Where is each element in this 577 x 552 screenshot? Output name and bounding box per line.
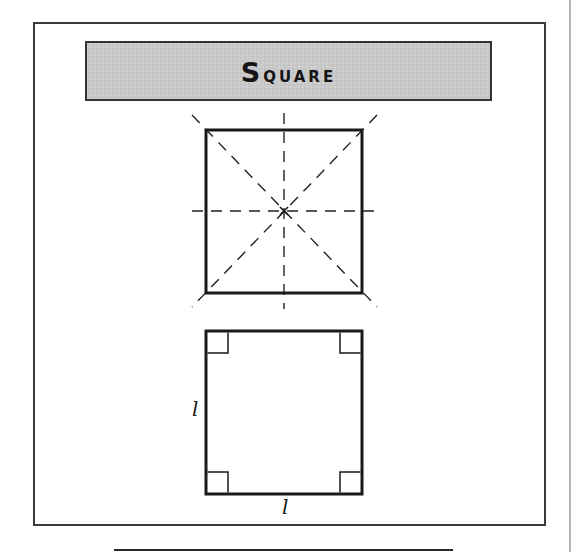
- side-length-label-left: l: [192, 399, 198, 419]
- title-banner: Square: [85, 41, 492, 101]
- side-length-label-bottom: l: [282, 497, 288, 517]
- footer-divider: [114, 549, 453, 551]
- page-title: Square: [241, 57, 336, 88]
- page-edge-line: [569, 0, 571, 552]
